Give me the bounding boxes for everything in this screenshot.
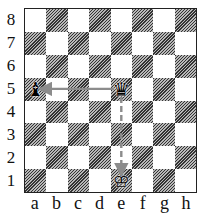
rank-label-8: 8	[4, 10, 18, 30]
file-label-g: g	[154, 193, 176, 214]
square-d6[interactable]	[89, 55, 110, 78]
square-e7[interactable]	[111, 32, 132, 55]
square-c3[interactable]	[68, 123, 89, 146]
square-g2[interactable]	[153, 146, 174, 169]
black-bishop-icon[interactable]: ♝	[25, 78, 46, 101]
square-e5[interactable]: ♛	[111, 78, 132, 101]
square-g4[interactable]	[153, 101, 174, 124]
square-b6[interactable]	[46, 55, 67, 78]
rank-label-6: 6	[4, 56, 18, 76]
square-b3[interactable]	[46, 123, 67, 146]
square-e8[interactable]	[111, 9, 132, 32]
square-d2[interactable]	[89, 146, 110, 169]
rank-label-2: 2	[4, 148, 18, 168]
file-label-c: c	[67, 193, 89, 214]
rank-label-4: 4	[4, 102, 18, 122]
rank-label-5: 5	[4, 79, 18, 99]
square-h5[interactable]	[175, 78, 196, 101]
square-g8[interactable]	[153, 9, 174, 32]
square-a5[interactable]: ♝	[25, 78, 46, 101]
square-e2[interactable]	[111, 146, 132, 169]
square-d4[interactable]	[89, 101, 110, 124]
rank-label-1: 1	[4, 171, 18, 191]
square-f7[interactable]	[132, 32, 153, 55]
square-d8[interactable]	[89, 9, 110, 32]
square-a8[interactable]	[25, 9, 46, 32]
file-label-e: e	[110, 193, 132, 214]
square-g3[interactable]	[153, 123, 174, 146]
square-f2[interactable]	[132, 146, 153, 169]
square-a6[interactable]	[25, 55, 46, 78]
square-b4[interactable]	[46, 101, 67, 124]
square-c6[interactable]	[68, 55, 89, 78]
square-a7[interactable]	[25, 32, 46, 55]
square-h2[interactable]	[175, 146, 196, 169]
square-g1[interactable]	[153, 169, 174, 192]
square-g5[interactable]	[153, 78, 174, 101]
square-f1[interactable]	[132, 169, 153, 192]
square-c1[interactable]	[68, 169, 89, 192]
square-c2[interactable]	[68, 146, 89, 169]
square-d3[interactable]	[89, 123, 110, 146]
file-label-f: f	[132, 193, 154, 214]
square-b7[interactable]	[46, 32, 67, 55]
square-f5[interactable]	[132, 78, 153, 101]
square-c5[interactable]	[68, 78, 89, 101]
square-d5[interactable]	[89, 78, 110, 101]
square-f3[interactable]	[132, 123, 153, 146]
square-g6[interactable]	[153, 55, 174, 78]
square-f6[interactable]	[132, 55, 153, 78]
square-a2[interactable]	[25, 146, 46, 169]
file-label-b: b	[46, 193, 68, 214]
file-label-a: a	[24, 193, 46, 214]
square-d1[interactable]	[89, 169, 110, 192]
square-h4[interactable]	[175, 101, 196, 124]
square-b5[interactable]	[46, 78, 67, 101]
square-b8[interactable]	[46, 9, 67, 32]
white-king-icon[interactable]: ♔	[111, 169, 132, 192]
rank-label-3: 3	[4, 125, 18, 145]
square-e4[interactable]	[111, 101, 132, 124]
square-f8[interactable]	[132, 9, 153, 32]
file-label-h: h	[175, 193, 197, 214]
black-queen-icon[interactable]: ♛	[111, 78, 132, 101]
square-a1[interactable]	[25, 169, 46, 192]
square-b2[interactable]	[46, 146, 67, 169]
square-e6[interactable]	[111, 55, 132, 78]
square-h3[interactable]	[175, 123, 196, 146]
chess-board: ♝♛♔	[24, 8, 197, 193]
square-h1[interactable]	[175, 169, 196, 192]
square-c8[interactable]	[68, 9, 89, 32]
square-h7[interactable]	[175, 32, 196, 55]
square-c4[interactable]	[68, 101, 89, 124]
square-a4[interactable]	[25, 101, 46, 124]
square-h6[interactable]	[175, 55, 196, 78]
square-f4[interactable]	[132, 101, 153, 124]
square-c7[interactable]	[68, 32, 89, 55]
square-d7[interactable]	[89, 32, 110, 55]
square-e1[interactable]: ♔	[111, 169, 132, 192]
file-label-d: d	[89, 193, 111, 214]
rank-label-7: 7	[4, 33, 18, 53]
square-a3[interactable]	[25, 123, 46, 146]
square-e3[interactable]	[111, 123, 132, 146]
square-b1[interactable]	[46, 169, 67, 192]
square-h8[interactable]	[175, 9, 196, 32]
square-g7[interactable]	[153, 32, 174, 55]
